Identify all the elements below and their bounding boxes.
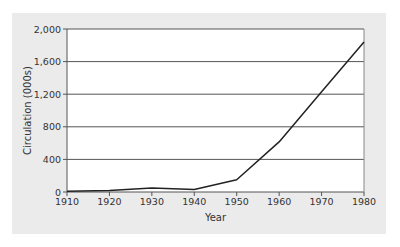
y-axis-title: Circulation (000s) — [22, 66, 33, 155]
y-tick-label: 400 — [43, 154, 61, 165]
y-tick-label: 2,000 — [34, 24, 61, 35]
x-tick-label: 1910 — [55, 196, 79, 207]
x-tick-label: 1960 — [267, 196, 291, 207]
x-axis-title: Year — [204, 212, 227, 223]
y-tick-label: 1,600 — [34, 56, 61, 67]
plot-area — [67, 29, 364, 192]
y-tick-label: 800 — [43, 121, 61, 132]
x-tick-label: 1920 — [97, 196, 121, 207]
x-tick-label: 1950 — [225, 196, 249, 207]
line-chart: 04008001,2001,6002,000191019201930194019… — [0, 0, 400, 247]
x-tick-label: 1930 — [140, 196, 164, 207]
x-tick-label: 1940 — [182, 196, 206, 207]
y-tick-label: 1,200 — [34, 89, 61, 100]
x-tick-label: 1970 — [309, 196, 333, 207]
x-tick-label: 1980 — [352, 196, 376, 207]
